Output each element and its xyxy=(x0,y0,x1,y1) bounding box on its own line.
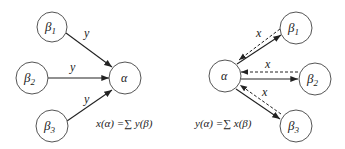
node-alpha: α xyxy=(209,60,241,92)
node-alpha: α xyxy=(109,62,141,94)
formula-x-alpha: x(α) =∑ y(β) xyxy=(95,117,153,130)
svg-text:α: α xyxy=(221,69,228,83)
message-passing-diagram: y y y β1 β2 β3 α x(α) =∑ y(β) x xyxy=(0,0,345,149)
node-beta2: β2 xyxy=(16,62,48,94)
formula-y-alpha: y(α) =∑ x(β) xyxy=(194,117,252,130)
edge-label-x1: x xyxy=(255,26,262,40)
edge-label-x3: x xyxy=(261,85,268,99)
left-panel: y y y β1 β2 β3 α x(α) =∑ y(β) xyxy=(16,12,153,142)
node-beta3: β3 xyxy=(36,110,68,142)
svg-text:α: α xyxy=(121,71,128,85)
node-beta3: β3 xyxy=(280,110,312,142)
edge-label-y1: y xyxy=(83,26,90,40)
dashed-edge-beta3-to-alpha xyxy=(240,85,281,114)
node-beta1: β1 xyxy=(280,12,312,44)
node-beta2: β2 xyxy=(299,63,331,95)
edge-label-x2: x xyxy=(264,57,271,71)
edge-label-y3: y xyxy=(83,92,90,106)
edge-alpha-to-beta3 xyxy=(236,89,280,119)
right-panel: x x x α β1 β2 β3 y(α) =∑ x(β) xyxy=(194,12,331,142)
node-beta1: β1 xyxy=(37,12,67,42)
edge-label-y2: y xyxy=(69,60,76,74)
